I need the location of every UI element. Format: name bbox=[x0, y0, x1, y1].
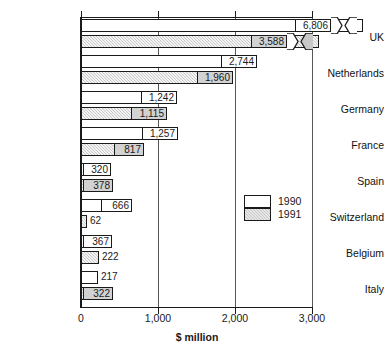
bar-belgium-1991 bbox=[81, 251, 99, 264]
value-label-uk-1990: 6,806 bbox=[295, 19, 331, 32]
value-label-netherlands-1991: 1,960 bbox=[197, 71, 233, 84]
value-label-netherlands-1990: 2,744 bbox=[221, 55, 257, 68]
value-label-uk-1991: 3,588 bbox=[251, 35, 287, 48]
value-label-germany-1990: 1,242 bbox=[141, 91, 177, 104]
xtick-label-2000: 2,000 bbox=[205, 312, 265, 324]
bottom-axis-line bbox=[81, 307, 313, 308]
tick-top-3000 bbox=[312, 11, 313, 17]
category-label-switzerland: Switzerland bbox=[308, 212, 384, 223]
legend-swatch-1990 bbox=[244, 195, 271, 208]
tick-top-1000 bbox=[158, 11, 159, 17]
bar-italy-1990 bbox=[81, 271, 98, 284]
axis-break-uk-1990 bbox=[331, 17, 357, 34]
xtick-label-0: 0 bbox=[51, 312, 111, 324]
value-label-germany-1991: 1,115 bbox=[131, 107, 167, 120]
category-label-spain: Spain bbox=[308, 176, 384, 187]
value-label-switzerland-1991: 62 bbox=[87, 215, 113, 228]
tick-top-0 bbox=[81, 11, 82, 17]
value-label-switzerland-1990: 666 bbox=[101, 199, 132, 212]
top-axis-line bbox=[81, 17, 313, 18]
value-label-france-1990: 1,257 bbox=[142, 127, 178, 140]
legend-label-1990: 1990 bbox=[278, 195, 301, 208]
category-label-italy: Italy bbox=[308, 284, 384, 295]
axis-break-uk-1991 bbox=[287, 33, 313, 50]
value-label-italy-1990: 217 bbox=[98, 271, 128, 284]
legend-label-1991: 1991 bbox=[278, 208, 301, 221]
category-label-belgium: Belgium bbox=[308, 248, 384, 259]
tick-top-2000 bbox=[235, 11, 236, 17]
xtick-label-3000: 3,000 bbox=[282, 312, 342, 324]
category-label-germany: Germany bbox=[308, 104, 384, 115]
value-label-france-1991: 817 bbox=[114, 143, 144, 156]
value-label-spain-1991: 378 bbox=[83, 179, 113, 192]
gridline-3000 bbox=[312, 18, 313, 307]
category-label-france: France bbox=[308, 140, 384, 151]
value-label-spain-1990: 320 bbox=[83, 163, 111, 176]
category-label-netherlands: Netherlands bbox=[308, 68, 384, 79]
value-label-belgium-1990: 367 bbox=[83, 235, 112, 248]
value-label-belgium-1991: 222 bbox=[99, 251, 129, 264]
value-label-italy-1991: 322 bbox=[83, 287, 113, 300]
bar-chart: UK 6,806 3,588 Netherlands 2,744 1,960 G… bbox=[0, 0, 384, 360]
xtick-label-1000: 1,000 bbox=[128, 312, 188, 324]
legend-swatch-1991 bbox=[244, 208, 271, 221]
x-axis-title: $ million bbox=[81, 331, 313, 343]
